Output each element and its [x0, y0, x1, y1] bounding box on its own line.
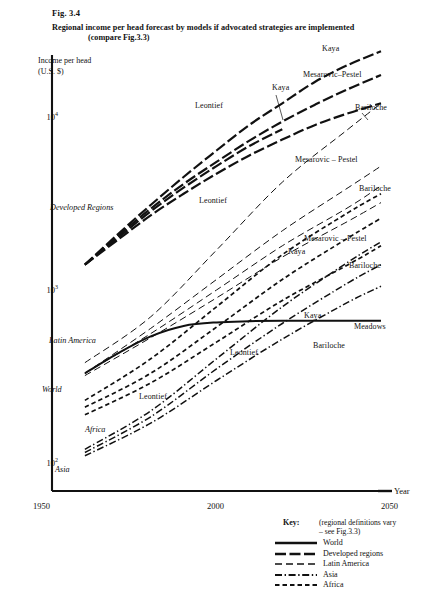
key-title: Key: — [283, 518, 299, 527]
key-line-swatch — [275, 538, 317, 548]
key-line-swatch — [275, 549, 317, 559]
series-layer — [85, 51, 381, 456]
key-note-line1: (regional definitions vary — [319, 518, 396, 527]
series-line — [85, 286, 381, 456]
key-item-label: Asia — [323, 570, 338, 579]
figure-3-4: Fig. 3.4 Regional income per head foreca… — [0, 0, 424, 594]
key-item-label: Developed regions — [323, 549, 383, 558]
series-line — [85, 218, 381, 407]
key-line-swatch — [275, 580, 317, 590]
key-item-label: Africa — [323, 580, 343, 589]
series-line — [85, 75, 381, 265]
series-line — [85, 246, 381, 415]
key-item-label: Latin America — [323, 559, 369, 568]
series-line — [85, 103, 381, 264]
key-note-line2: – see Fig.3.3) — [319, 527, 360, 536]
series-line — [85, 242, 381, 449]
series-line — [85, 321, 381, 374]
key-line-swatch — [275, 559, 317, 569]
key-item-label: World — [323, 538, 343, 547]
plot-area — [0, 0, 424, 594]
series-line — [85, 103, 381, 362]
key-line-swatch — [275, 570, 317, 580]
key-note: (regional definitions vary – see Fig.3.3… — [319, 518, 424, 536]
series-line — [85, 129, 282, 265]
